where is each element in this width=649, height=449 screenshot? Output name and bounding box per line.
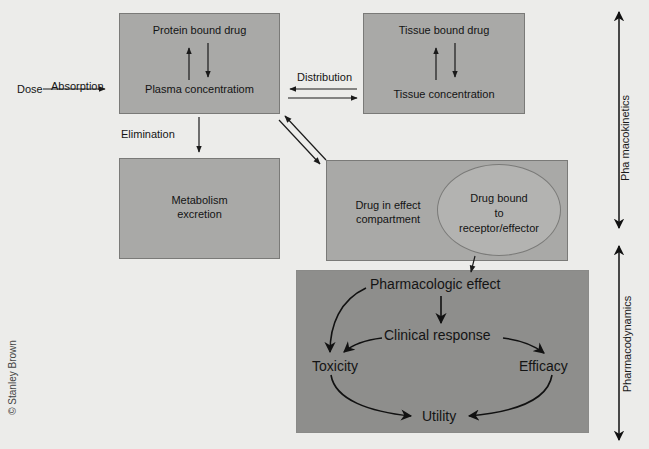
tissue-bound-drug-label: Tissue bound drug xyxy=(363,24,525,37)
effect-to-plasma-arrow xyxy=(285,116,326,160)
dose-label: Dose xyxy=(17,83,43,96)
copyright-label: © Stanley Brown xyxy=(7,338,18,418)
excretion-label: excretion xyxy=(119,208,280,221)
tissue-concentration-label: Tissue concentration xyxy=(363,88,525,101)
protein-bound-drug-label: Protein bound drug xyxy=(119,24,280,37)
distribution-label: Distribution xyxy=(297,71,352,84)
toxicity-label: Toxicity xyxy=(312,358,358,374)
pharmacodynamics-label: Pharmacodynamics xyxy=(621,289,633,399)
elimination-label: Elimination xyxy=(121,128,175,141)
pk-pd-diagram: Protein bound drug Plasma concentratiom … xyxy=(0,0,649,449)
drug-in-effect-label: Drug in effect xyxy=(343,199,433,212)
plasma-concentration-label: Plasma concentratiom xyxy=(119,83,280,96)
drug-bound-label: Drug bound xyxy=(437,192,561,205)
plasma-to-effect-arrow xyxy=(279,120,320,164)
efficacy-label: Efficacy xyxy=(519,358,568,374)
to-label: to xyxy=(437,207,561,220)
receptor-effector-label: receptor/effector xyxy=(437,222,561,235)
pharmacokinetics-label: Pha macokinetics xyxy=(619,93,631,183)
metabolism-label: Metabolism xyxy=(119,194,280,207)
clinical-response-label: Clinical response xyxy=(384,327,491,343)
absorption-label: Absorption xyxy=(51,80,104,93)
pharmacologic-effect-label: Pharmacologic effect xyxy=(370,276,500,292)
utility-label: Utility xyxy=(422,408,456,424)
compartment-label: compartment xyxy=(343,213,433,226)
